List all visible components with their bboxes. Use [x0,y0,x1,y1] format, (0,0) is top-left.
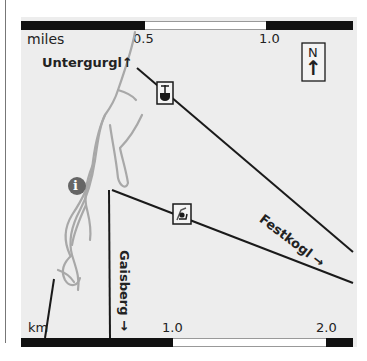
untergurgl-arrow: ↑ [122,55,133,70]
gaisberg-arrow: → [117,320,132,331]
compass-north-arrow: ↑ [305,58,322,78]
lift-lines [45,68,353,338]
gaisberg-label: Gaisberg [117,250,132,315]
untergurgl-label: Untergurgl [42,55,122,70]
place-untergurgl: Untergurgl↑ [42,56,133,69]
gondola-icon [157,82,173,104]
place-gaisberg: Gaisberg → [118,250,131,331]
info-icon-glyph: i [73,179,78,192]
chairlift-icon [173,204,191,224]
